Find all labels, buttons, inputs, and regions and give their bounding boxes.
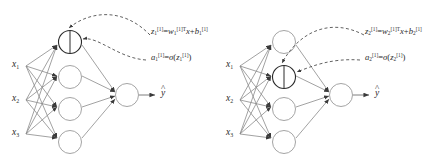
leader-to-pre-activation [69,15,150,35]
input-label-x3: x3 [226,128,233,139]
input-to-hidden-edges [26,45,57,138]
hidden-unit-4 [59,131,82,154]
hidden-to-output-edges [296,45,329,138]
activation-equation: a1[1]=σ(z1[1]) [151,53,191,63]
input-label-x1: x1 [226,60,233,71]
hidden-unit-1-highlighted [59,31,82,54]
input-label-x3: x3 [12,128,19,139]
leader-to-activation [83,39,146,60]
hidden-unit-3 [59,98,82,121]
hidden-unit-1 [273,31,296,54]
input-to-hidden-edges [240,45,271,138]
hidden-unit-4 [273,131,296,154]
hidden-unit-3 [273,98,296,121]
output-label-yhat: ^y [161,89,165,99]
output-unit [330,84,353,107]
leader-to-activation [297,60,360,72]
network-panel-right: x1 x2 x3 ^y z2[1]=w2[1]Tx+b2[1] a2[1]=σ(… [214,0,428,164]
hidden-unit-2-highlighted [273,66,296,89]
network-graphic-left [0,0,214,164]
hidden-unit-2 [59,66,82,89]
output-label-yhat: ^y [375,89,379,99]
network-panel-left: x1 x2 x3 ^y z1[1]=w1[1]Tx+b1[1] a1[1]=σ(… [0,0,214,164]
neural-network-figure: x1 x2 x3 ^y z1[1]=w1[1]Tx+b1[1] a1[1]=σ(… [0,0,428,164]
input-label-x1: x1 [12,60,19,71]
activation-equation: a2[1]=σ(z2[1]) [365,53,405,63]
pre-activation-equation: z1[1]=w1[1]Tx+b1[1] [151,27,208,37]
network-graphic-right [214,0,428,164]
pre-activation-equation: z2[1]=w2[1]Tx+b2[1] [365,27,422,37]
input-label-x2: x2 [12,94,19,105]
hidden-to-output-edges [82,45,115,138]
input-label-x2: x2 [226,94,233,105]
output-unit [116,84,139,107]
